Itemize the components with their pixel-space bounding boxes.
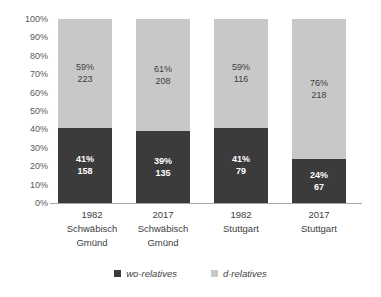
- bar-segment-wo-relatives[interactable]: 41% 158: [58, 128, 112, 203]
- stacked-bar-chart: 100% 90% 80% 70% 60% 50% 40% 30% 20% 10%…: [0, 0, 381, 297]
- bar-label-percent: 41%: [232, 153, 250, 165]
- bar-label-count: 67: [314, 181, 324, 193]
- x-axis-label-line: 2017: [274, 208, 364, 222]
- bar-label-count: 79: [236, 165, 246, 177]
- legend-swatch-icon: [114, 270, 121, 277]
- bar-column[interactable]: 76% 218 24% 67: [292, 19, 346, 203]
- legend-item-wo-relatives[interactable]: wo-relatives: [114, 268, 177, 279]
- x-axis-label-line: Gmünd: [118, 236, 208, 250]
- bar-segment-d-relatives[interactable]: 61% 208: [136, 19, 190, 131]
- bar-segment-wo-relatives[interactable]: 39% 135: [136, 131, 190, 203]
- x-axis-category-label: 1982 Stuttgart: [196, 208, 286, 236]
- bar-label-count: 135: [155, 167, 170, 179]
- legend-item-d-relatives[interactable]: d-relatives: [211, 268, 267, 279]
- x-axis-label-line: 2017: [118, 208, 208, 222]
- bar-label-percent: 41%: [76, 153, 94, 165]
- bar-label-percent: 59%: [76, 61, 94, 73]
- bar-segment-wo-relatives[interactable]: 24% 67: [292, 159, 346, 203]
- bar-label-count: 223: [77, 73, 92, 85]
- chart-legend: wo-relatives d-relatives: [0, 268, 381, 279]
- y-axis-tick: 20%: [0, 162, 48, 171]
- x-axis-category-label: 2017 Schwäbisch Gmünd: [118, 208, 208, 249]
- x-axis-category-label: 2017 Stuttgart: [274, 208, 364, 236]
- y-axis-tick: 30%: [0, 143, 48, 152]
- bar-label-count: 208: [155, 75, 170, 87]
- bar-column[interactable]: 59% 223 41% 158: [58, 19, 112, 203]
- bar-label-count: 158: [77, 165, 92, 177]
- bar-label-count: 116: [234, 73, 248, 85]
- y-axis-tick: 10%: [0, 180, 48, 189]
- bar-label-percent: 61%: [154, 63, 172, 75]
- bar-segment-d-relatives[interactable]: 59% 116: [214, 19, 268, 128]
- y-axis-tick: 70%: [0, 70, 48, 79]
- bar-label-percent: 76%: [310, 77, 328, 89]
- bar-column[interactable]: 61% 208 39% 135: [136, 19, 190, 203]
- y-axis-tick: 50%: [0, 107, 48, 116]
- bar-label-percent: 39%: [154, 155, 172, 167]
- legend-swatch-icon: [211, 270, 218, 277]
- axis-baseline: [50, 203, 362, 204]
- bar-segment-wo-relatives[interactable]: 41% 79: [214, 128, 268, 203]
- bar-label-count: 218: [311, 89, 326, 101]
- y-axis-tick: 60%: [0, 88, 48, 97]
- x-axis-label-line: 1982: [196, 208, 286, 222]
- legend-label: wo-relatives: [126, 268, 177, 279]
- bar-column[interactable]: 59% 116 41% 79: [214, 19, 268, 203]
- y-axis-tick: 100%: [0, 15, 48, 24]
- x-axis-label-line: Stuttgart: [274, 222, 364, 236]
- x-axis: 1982 Schwäbisch Gmünd 2017 Schwäbisch Gm…: [56, 208, 356, 256]
- x-axis-label-line: Stuttgart: [196, 222, 286, 236]
- y-axis-tick: 80%: [0, 51, 48, 60]
- x-axis-label-line: Schwäbisch: [118, 222, 208, 236]
- bar-label-percent: 24%: [310, 169, 328, 181]
- bar-segment-d-relatives[interactable]: 59% 223: [58, 19, 112, 128]
- y-axis-tick: 0%: [0, 199, 48, 208]
- bar-label-percent: 59%: [232, 61, 250, 73]
- bar-segment-d-relatives[interactable]: 76% 218: [292, 19, 346, 159]
- y-axis-tick: 90%: [0, 33, 48, 42]
- y-axis: 100% 90% 80% 70% 60% 50% 40% 30% 20% 10%…: [0, 0, 52, 297]
- plot-area: 59% 223 41% 158 61% 208 39% 135 59% 116: [56, 19, 356, 203]
- legend-label: d-relatives: [223, 268, 267, 279]
- y-axis-tick: 40%: [0, 125, 48, 134]
